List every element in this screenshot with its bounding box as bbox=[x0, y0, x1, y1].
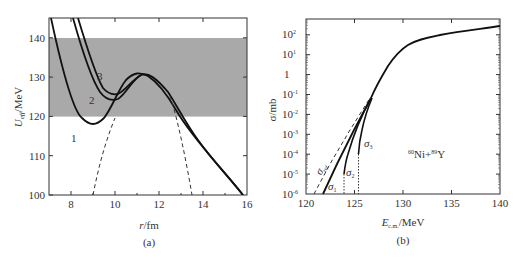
x-tick-label: 10 bbox=[110, 198, 122, 210]
y-axis-label-b: σ/mb bbox=[266, 98, 278, 122]
x-tick-label: 8 bbox=[68, 198, 74, 210]
x-tick-label: 140 bbox=[492, 197, 509, 209]
shaded-band bbox=[49, 38, 247, 117]
label-sigma1: σ1 bbox=[328, 180, 336, 193]
x-tick-label: 16 bbox=[242, 198, 254, 210]
x-tick-label: 130 bbox=[395, 197, 412, 209]
x-axis-label-b: Ec.m./MeV bbox=[381, 216, 425, 229]
x-tick-label: 120 bbox=[298, 197, 315, 209]
dashed-inner bbox=[93, 118, 115, 195]
y-tick-label: 10-5 bbox=[282, 168, 298, 180]
curve-label-2: 2 bbox=[89, 94, 95, 106]
figure: 8 10 12 14 16 100 110 120 130 140 1 2 3 … bbox=[0, 0, 517, 259]
panel-b: 120 125 130 135 140 10-6 10-5 10-4 10-3 … bbox=[266, 19, 509, 247]
curve-label-1: 1 bbox=[71, 132, 77, 144]
x-tick-label: 12 bbox=[154, 198, 165, 210]
y-tick-labels-a: 100 110 120 130 140 bbox=[29, 32, 46, 201]
x-tick-label: 14 bbox=[198, 198, 210, 210]
y-tick-label: 110 bbox=[29, 150, 46, 162]
reaction-label: 60Ni+89Y bbox=[408, 148, 445, 160]
curve-sigma-ref bbox=[314, 98, 370, 194]
y-tick-label: 101 bbox=[282, 48, 296, 60]
panel-a: 8 10 12 14 16 100 110 120 130 140 1 2 3 … bbox=[12, 18, 253, 249]
y-tick-labels-b: 10-6 10-5 10-4 10-3 10-2 10-1 1 101 102 bbox=[282, 28, 298, 200]
y-tick-label: 1 bbox=[284, 68, 290, 80]
y-axis-label-a: Ueff/MeV bbox=[12, 87, 26, 128]
caption-a: (a) bbox=[143, 236, 156, 249]
y-tick-label: 10-3 bbox=[282, 128, 298, 140]
x-tick-label: 135 bbox=[443, 197, 460, 209]
y-tick-label: 140 bbox=[29, 32, 46, 44]
y-tick-label: 10-1 bbox=[282, 88, 298, 100]
y-minor-ticks-b bbox=[306, 21, 500, 188]
x-axis-label-a: r/fm bbox=[139, 219, 159, 231]
x-tick-labels-b: 120 125 130 135 140 bbox=[298, 197, 509, 209]
y-ticks-b bbox=[306, 35, 500, 174]
y-tick-label: 102 bbox=[282, 28, 296, 40]
y-tick-label: 10-4 bbox=[282, 148, 298, 160]
x-tick-labels-a: 8 10 12 14 16 bbox=[68, 198, 253, 210]
curve-common bbox=[371, 26, 500, 98]
label-sigma-ref: σref bbox=[312, 160, 330, 177]
x-tick-label: 125 bbox=[346, 197, 363, 209]
caption-b: (b) bbox=[397, 234, 410, 247]
y-tick-label: 100 bbox=[29, 189, 46, 201]
label-sigma3: σ3 bbox=[364, 137, 372, 150]
y-tick-label: 130 bbox=[29, 71, 46, 83]
y-tick-label: 10-2 bbox=[282, 108, 298, 120]
y-tick-label: 10-6 bbox=[282, 188, 298, 200]
curve-label-3: 3 bbox=[97, 70, 103, 82]
y-tick-label: 120 bbox=[29, 110, 46, 122]
label-sigma2: σ2 bbox=[346, 166, 354, 179]
